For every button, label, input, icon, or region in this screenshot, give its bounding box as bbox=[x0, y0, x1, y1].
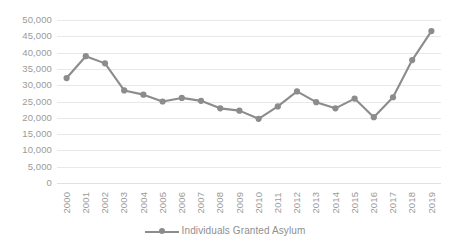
data-point bbox=[217, 105, 223, 111]
data-point bbox=[256, 116, 262, 122]
data-point bbox=[409, 57, 415, 63]
y-axis-tick-label: 40,000 bbox=[22, 48, 52, 58]
chart-legend: Individuals Granted Asylum bbox=[0, 226, 450, 236]
data-point bbox=[332, 105, 338, 111]
series-layer bbox=[57, 20, 441, 183]
legend-marker-icon bbox=[145, 226, 179, 236]
data-point bbox=[160, 98, 166, 104]
y-axis-tick-label: 45,000 bbox=[22, 32, 52, 42]
data-point bbox=[236, 108, 242, 114]
y-axis-tick-label: 5,000 bbox=[28, 162, 52, 172]
data-point bbox=[371, 114, 377, 120]
data-point bbox=[198, 98, 204, 104]
y-axis: 50,00045,00040,00035,00030,00025,00020,0… bbox=[0, 20, 52, 183]
y-axis-tick-label: 50,000 bbox=[22, 15, 52, 25]
series-markers bbox=[64, 28, 435, 122]
x-axis: 2000200120022003200420052006200720082009… bbox=[57, 186, 441, 222]
y-axis-tick-label: 20,000 bbox=[22, 113, 52, 123]
data-point bbox=[179, 95, 185, 101]
y-axis-tick-label: 30,000 bbox=[22, 80, 52, 90]
x-axis-tick-label: 2019 bbox=[413, 186, 449, 210]
y-axis-tick-label: 10,000 bbox=[22, 146, 52, 156]
data-point bbox=[294, 88, 300, 94]
line-chart: 50,00045,00040,00035,00030,00025,00020,0… bbox=[0, 0, 450, 251]
data-point bbox=[352, 95, 358, 101]
data-point bbox=[102, 60, 108, 66]
data-point bbox=[275, 103, 281, 109]
plot-area bbox=[57, 20, 441, 183]
data-point bbox=[313, 99, 319, 105]
data-point bbox=[121, 87, 127, 93]
data-point bbox=[428, 28, 434, 34]
data-point bbox=[390, 94, 396, 100]
data-point bbox=[140, 92, 146, 98]
y-axis-tick-label: 35,000 bbox=[22, 64, 52, 74]
y-axis-tick-label: 25,000 bbox=[22, 97, 52, 107]
y-axis-tick-label: 15,000 bbox=[22, 129, 52, 139]
data-point bbox=[64, 75, 70, 81]
data-point bbox=[83, 53, 89, 59]
series-line-individuals-granted-asylum bbox=[67, 31, 432, 119]
gridline-0 bbox=[57, 183, 441, 184]
legend-item-label: Individuals Granted Asylum bbox=[182, 226, 306, 236]
